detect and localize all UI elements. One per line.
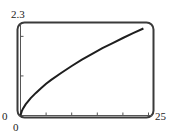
viewing-window-frame bbox=[18, 23, 154, 118]
x-min-label: 0 bbox=[13, 121, 19, 132]
y-max-label: 2.3 bbox=[11, 8, 25, 20]
function-curve bbox=[21, 29, 144, 116]
x-max-label: 25 bbox=[155, 110, 167, 122]
y-min-label: 0 bbox=[2, 110, 8, 122]
calculator-graph: 2.3 0 0 25 bbox=[0, 0, 171, 132]
